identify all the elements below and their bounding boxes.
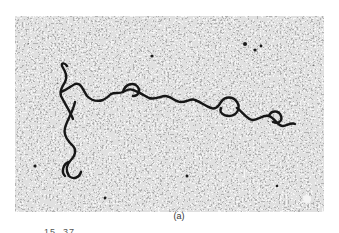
grain-texture xyxy=(15,16,324,212)
clipped-footer-text: 15. 37 xyxy=(44,227,75,233)
micrograph-svg xyxy=(15,16,324,212)
bright-speck xyxy=(303,195,311,203)
micrograph-image xyxy=(15,16,324,212)
panel-label: (a) xyxy=(159,211,199,222)
